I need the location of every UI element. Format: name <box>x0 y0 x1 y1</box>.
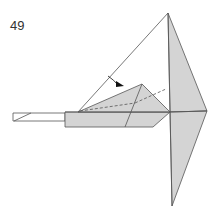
upper-triangle <box>78 84 170 112</box>
right-flap-upper <box>168 13 207 112</box>
body-flap <box>65 112 170 127</box>
arrow-head-icon <box>116 81 124 87</box>
right-flap-lower <box>170 111 207 206</box>
left-strip <box>13 113 65 121</box>
origami-diagram <box>0 0 224 210</box>
